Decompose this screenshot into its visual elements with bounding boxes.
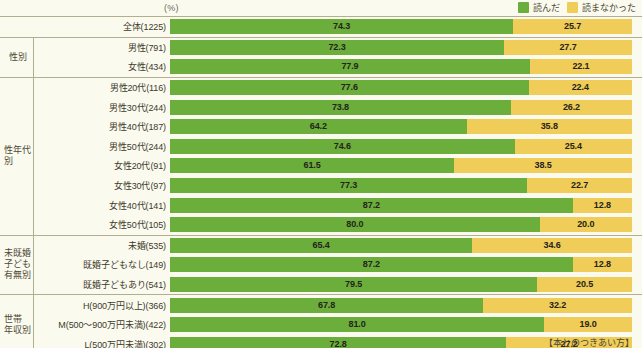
chart-row: M(500〜900万円未満)(422)81.019.0 (34, 315, 642, 335)
bar-value-label: 72.8 (330, 340, 347, 348)
chart-footnote: 【本とのつきあい方】 (544, 336, 634, 348)
chart-row: 男性50代(244)74.625.4 (34, 137, 642, 157)
row-bar: 73.826.2 (170, 100, 632, 115)
chart-row: 女性20代(91)61.538.5 (34, 156, 642, 176)
bar-segment-unread: 12.8 (573, 257, 632, 272)
row-bar: 65.434.6 (170, 238, 632, 253)
read-swatch-icon (518, 2, 529, 13)
row-bar: 77.922.1 (170, 59, 632, 74)
bar-segment-read: 72.3 (170, 40, 504, 55)
bar-segment-read: 74.6 (170, 139, 515, 154)
group-label: 未既婚子ども有無別 (0, 236, 34, 295)
bar-segment-read: 80.0 (170, 217, 540, 232)
bar-segment-read: 73.8 (170, 100, 511, 115)
bar-segment-unread: 20.0 (540, 217, 632, 232)
row-bar: 87.212.8 (170, 257, 632, 272)
row-bar: 64.235.8 (170, 119, 632, 134)
bar-value-label: 20.5 (576, 280, 593, 289)
row-label: L(500万円未満)(302) (34, 338, 170, 348)
row-label: 女性20代(91) (34, 159, 170, 172)
group-label (0, 17, 34, 37)
bar-segment-unread: 38.5 (454, 158, 632, 173)
bar-value-label: 80.0 (346, 220, 363, 229)
row-label: 男性50代(244) (34, 140, 170, 153)
bar-value-label: 81.0 (349, 320, 366, 329)
chart-row: 女性(434)77.922.1 (34, 57, 642, 77)
row-bar: 87.212.8 (170, 198, 632, 213)
row-label: 男性30代(244) (34, 101, 170, 114)
bar-value-label: 77.9 (341, 62, 358, 71)
row-label: 既婚子どもあり(541) (34, 278, 170, 291)
row-label: 全体(1225) (34, 20, 170, 33)
chart-header: (%) 読んだ 読まなかった (0, 0, 642, 17)
chart-group: 性年代別男性20代(116)77.622.4男性30代(244)73.826.2… (0, 78, 642, 236)
row-label: 未婚(535) (34, 239, 170, 252)
chart-group: 未既婚子ども有無別未婚(535)65.434.6既婚子どもなし(149)87.2… (0, 236, 642, 296)
bar-value-label: 34.6 (544, 241, 561, 250)
bar-segment-unread: 20.5 (537, 277, 632, 292)
unread-swatch-icon (567, 2, 578, 13)
group-label: 性別 (0, 38, 34, 77)
bar-value-label: 77.3 (340, 181, 357, 190)
bar-value-label: 19.0 (580, 320, 597, 329)
bar-value-label: 77.6 (341, 83, 358, 92)
survey-chart-page: (%) 読んだ 読まなかった 全体(1225)74.325.7性別男性(791)… (0, 0, 642, 348)
bar-value-label: 87.2 (363, 201, 380, 210)
chart-row: 男性30代(244)73.826.2 (34, 97, 642, 117)
chart-row: 女性50代(105)80.020.0 (34, 215, 642, 235)
bar-segment-unread: 25.7 (513, 19, 632, 34)
group-label: 性年代別 (0, 78, 34, 235)
chart-group: 性別男性(791)72.327.7女性(434)77.922.1 (0, 38, 642, 78)
bar-value-label: 26.2 (563, 103, 580, 112)
row-bar: 81.019.0 (170, 317, 632, 332)
bar-segment-read: 72.8 (170, 337, 506, 348)
bar-value-label: 25.7 (564, 22, 581, 31)
bar-value-label: 20.0 (577, 220, 594, 229)
chart-row: 女性30代(97)77.322.7 (34, 176, 642, 196)
row-label: 既婚子どもなし(149) (34, 258, 170, 271)
group-rows: 男性20代(116)77.622.4男性30代(244)73.826.2男性40… (34, 78, 642, 235)
chart-row: 全体(1225)74.325.7 (34, 17, 642, 37)
bar-segment-unread: 34.6 (472, 238, 632, 253)
bar-value-label: 67.8 (318, 301, 335, 310)
row-label: 女性40代(141) (34, 199, 170, 212)
chart-row: 既婚子どもあり(541)79.520.5 (34, 275, 642, 295)
row-bar: 74.325.7 (170, 19, 632, 34)
chart-group: 全体(1225)74.325.7 (0, 17, 642, 38)
row-label: 男性(791) (34, 41, 170, 54)
legend-item-unread: 読まなかった (567, 1, 636, 14)
row-bar: 79.520.5 (170, 277, 632, 292)
bar-segment-unread: 19.0 (544, 317, 632, 332)
chart-row: 既婚子どもなし(149)87.212.8 (34, 255, 642, 275)
bar-value-label: 65.4 (313, 241, 330, 250)
bar-value-label: 35.8 (541, 122, 558, 131)
bar-segment-read: 65.4 (170, 238, 472, 253)
bar-value-label: 32.2 (549, 301, 566, 310)
bar-value-label: 22.4 (572, 83, 589, 92)
bar-segment-read: 87.2 (170, 257, 573, 272)
bar-value-label: 22.7 (571, 181, 588, 190)
row-label: 女性30代(97) (34, 179, 170, 192)
bar-segment-unread: 27.7 (504, 40, 632, 55)
bar-segment-unread: 22.7 (527, 178, 632, 193)
bar-segment-read: 87.2 (170, 198, 573, 213)
chart-legend: 読んだ 読まなかった (518, 1, 636, 14)
row-label: M(500〜900万円未満)(422) (34, 318, 170, 331)
row-bar: 67.832.2 (170, 298, 632, 313)
row-label: H(900万円以上)(366) (34, 299, 170, 312)
bar-segment-read: 79.5 (170, 277, 537, 292)
group-label: 世帯年収別 (0, 295, 34, 348)
unit-label: (%) (164, 3, 179, 13)
row-label: 男性20代(116) (34, 81, 170, 94)
bar-segment-read: 61.5 (170, 158, 454, 173)
group-rows: 男性(791)72.327.7女性(434)77.922.1 (34, 38, 642, 77)
row-bar: 72.327.7 (170, 40, 632, 55)
row-label: 女性(434) (34, 60, 170, 73)
bar-value-label: 87.2 (363, 260, 380, 269)
chart-row: 男性20代(116)77.622.4 (34, 78, 642, 98)
bar-value-label: 27.7 (559, 43, 576, 52)
bar-segment-unread: 22.4 (529, 80, 632, 95)
bar-segment-read: 77.3 (170, 178, 527, 193)
legend-item-read: 読んだ (518, 1, 560, 14)
row-bar: 74.625.4 (170, 139, 632, 154)
